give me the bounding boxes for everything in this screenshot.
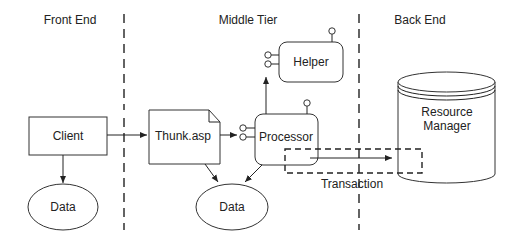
thunk-asp-label: Thunk.asp (155, 129, 211, 143)
middle-data-label: Data (219, 200, 245, 214)
helper-label: Helper (293, 55, 328, 69)
processor-top-interface-icon (304, 100, 310, 106)
helper-interface-icon (265, 52, 271, 58)
resource-manager-label-line1: Resource (421, 105, 473, 119)
middle-data-node[interactable]: Data (196, 184, 268, 230)
client-node[interactable]: Client (29, 117, 107, 155)
resource-manager-label-line2: Manager (423, 119, 470, 133)
column-header-front-end: Front End (44, 13, 97, 27)
edge-processor-to-data (245, 165, 262, 182)
thunk-asp-node[interactable]: Thunk.asp (149, 110, 220, 164)
processor-label: Processor (259, 130, 313, 144)
helper-interface-icon (265, 61, 271, 67)
transaction-label: Transaction (321, 177, 383, 191)
architecture-diagram: Front End Middle Tier Back End Client Da… (0, 0, 519, 245)
column-header-back-end: Back End (394, 13, 445, 27)
client-data-node[interactable]: Data (28, 184, 98, 230)
helper-top-interface-icon (329, 28, 335, 34)
processor-node[interactable]: Processor (240, 100, 318, 165)
processor-interface-icon (240, 134, 246, 140)
helper-node[interactable]: Helper (265, 28, 343, 82)
resource-manager-node[interactable]: Resource Manager (398, 72, 495, 183)
client-label: Client (53, 129, 84, 143)
client-data-label: Data (50, 200, 76, 214)
edge-thunk-to-data (205, 164, 218, 182)
processor-interface-icon (240, 125, 246, 131)
column-header-middle-tier: Middle Tier (219, 13, 278, 27)
